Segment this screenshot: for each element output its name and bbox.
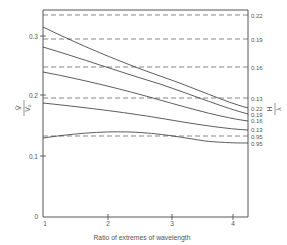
x-tick-label: 2 <box>106 220 110 227</box>
y-tick-label: 0.3 <box>29 33 38 40</box>
x-tick-label: 1 <box>43 220 47 227</box>
curve-end-label: 0.19 <box>251 112 263 118</box>
right-axis-label: H λ <box>266 103 282 115</box>
reference-label: 0.95 <box>251 134 263 140</box>
reference-label: 0.16 <box>251 65 263 71</box>
data-curves <box>43 27 248 143</box>
curve-0-19 <box>43 47 248 114</box>
curve-0-13 <box>43 103 248 130</box>
svg-text:H: H <box>266 106 273 111</box>
curve-end-label: 0.95 <box>251 141 263 147</box>
y-tick-label: 0.1 <box>29 153 38 160</box>
y-tick-label: 0 <box>34 213 38 220</box>
y-axis-label: V̄ V₀ <box>15 100 31 116</box>
y-tick-label: 0.2 <box>29 92 38 99</box>
svg-text:λ: λ <box>275 107 282 111</box>
curve-0-95 <box>43 132 248 143</box>
curve-end-label: 0.13 <box>251 127 263 133</box>
curve-end-label: 0.16 <box>251 118 263 124</box>
reference-label: 0.13 <box>251 96 263 102</box>
reference-lines <box>43 15 248 136</box>
line-chart: 0.3 0.2 0.1 0 V̄ V₀ 1 2 3 4 Ratio of ext… <box>0 0 287 245</box>
x-tick-label: 3 <box>170 220 174 227</box>
reference-label: 0.19 <box>251 37 263 43</box>
reference-label: 0.22 <box>251 13 263 19</box>
x-axis-label: Ratio of extremes of wavelength <box>93 234 190 242</box>
svg-text:V₀: V₀ <box>24 104 31 112</box>
svg-text:V̄: V̄ <box>15 105 22 110</box>
x-tick-label: 4 <box>231 220 235 227</box>
